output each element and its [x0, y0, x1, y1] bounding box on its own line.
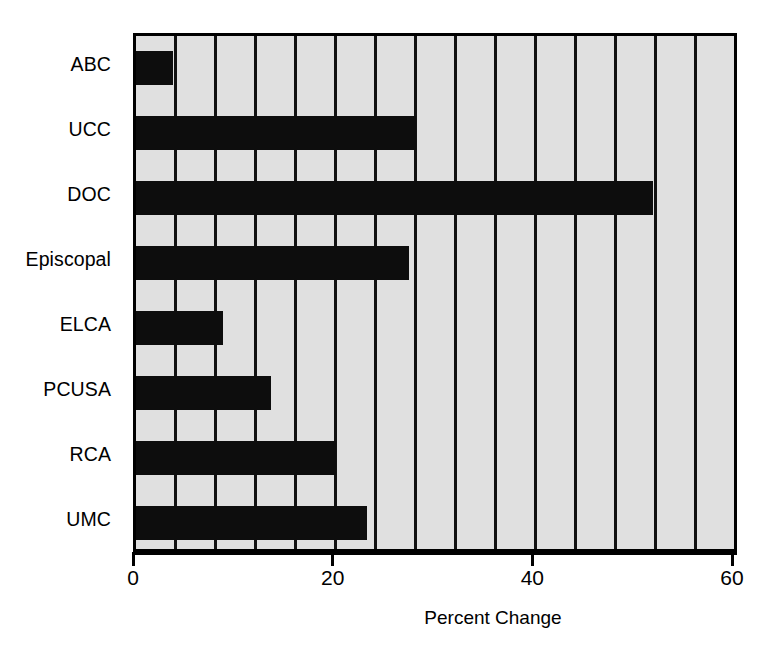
x-axis-title: Percent Change [0, 608, 782, 627]
gridline [614, 36, 617, 549]
x-axis-title-text: Percent Change [424, 608, 561, 627]
y-axis-label-abc: ABC [0, 56, 122, 76]
y-axis-label-pcusa: PCUSA [0, 380, 122, 400]
gridline [374, 36, 377, 549]
bar-chart-figure: ABCUCCDOCEpiscopalELCAPCUSARCAUMC 020406… [0, 0, 782, 647]
y-axis-label-episcopal: Episcopal [0, 250, 122, 270]
bar-episcopal [136, 246, 409, 280]
bar-doc [136, 181, 653, 215]
gridline [654, 36, 657, 549]
x-axis-tick [731, 552, 734, 566]
x-axis-tick [331, 552, 334, 566]
x-axis-tick [132, 552, 135, 566]
x-axis-tick-label-60: 60 [720, 567, 743, 588]
y-axis-label-umc: UMC [0, 510, 122, 530]
bar-ucc [136, 116, 416, 150]
gridline [454, 36, 457, 549]
plot-area [133, 33, 737, 552]
gridline [534, 36, 537, 549]
y-axis-label-doc: DOC [0, 185, 122, 205]
bar-rca [136, 441, 336, 475]
x-axis-tick-label-0: 0 [127, 567, 139, 588]
y-axis-label-rca: RCA [0, 445, 122, 465]
x-axis-tick-label-20: 20 [321, 567, 344, 588]
gridline [494, 36, 497, 549]
y-axis-label-ucc: UCC [0, 121, 122, 141]
gridline [574, 36, 577, 549]
x-axis-tick [531, 552, 534, 566]
y-axis-category-labels: ABCUCCDOCEpiscopalELCAPCUSARCAUMC [0, 33, 122, 552]
plot-inner [136, 36, 734, 549]
bar-abc [136, 51, 173, 85]
x-axis-line [133, 552, 737, 555]
bar-elca [136, 311, 223, 345]
y-axis-label-elca: ELCA [0, 315, 122, 335]
bar-pcusa [136, 376, 271, 410]
gridline [734, 36, 735, 549]
x-axis-tick-label-40: 40 [521, 567, 544, 588]
gridline [694, 36, 697, 549]
bar-umc [136, 506, 367, 540]
gridline [414, 36, 417, 549]
